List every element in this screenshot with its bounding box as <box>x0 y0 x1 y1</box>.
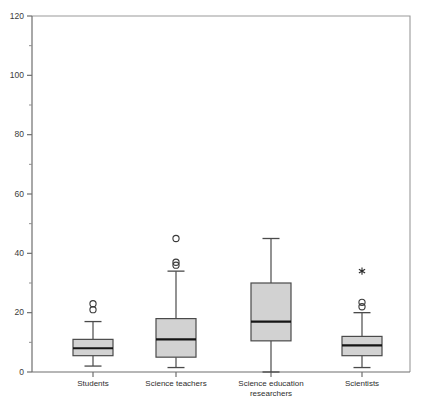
y-tick-label: 40 <box>15 248 25 258</box>
category-label: Science education <box>238 379 303 388</box>
category-label: Students <box>77 379 109 388</box>
box-plot-svg: 020406080100120 StudentsScience teachers… <box>0 0 426 407</box>
category-label: Scientists <box>345 379 379 388</box>
y-tick-label: 20 <box>15 307 25 317</box>
box-plot-figure: 020406080100120 StudentsScience teachers… <box>0 0 426 407</box>
category-label: Science teachers <box>145 379 206 388</box>
y-tick-label: 60 <box>15 189 25 199</box>
y-tick-label: 120 <box>10 11 24 21</box>
y-tick-label: 100 <box>10 70 24 80</box>
y-tick-label: 0 <box>19 367 24 377</box>
box-iqr <box>156 319 196 358</box>
y-tick-label: 80 <box>15 129 25 139</box>
category-label: researchers <box>250 389 292 398</box>
box-iqr <box>251 283 291 341</box>
